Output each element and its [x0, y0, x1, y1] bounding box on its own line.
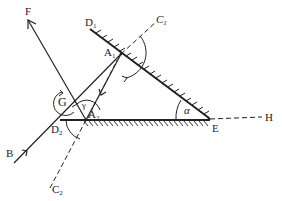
mirror-d1-e [90, 29, 209, 118]
label-d2-main: D [51, 123, 59, 135]
label-a2-main: A [88, 108, 96, 120]
label-c1-sub: 1 [163, 19, 167, 27]
label-gamma: γ [82, 101, 86, 110]
label-c2-sub: 2 [59, 189, 63, 197]
point-e [208, 118, 211, 121]
label-d2-sub: 2 [59, 129, 63, 137]
extension-line-e-h [210, 117, 262, 119]
label-e: E [212, 123, 219, 134]
label-a2-sub: 2 [96, 114, 100, 122]
label-a1-sub: 1 [112, 52, 116, 60]
mirror-d2-e [60, 120, 210, 126]
label-h: H [265, 112, 273, 123]
two-mirror-diagram [0, 0, 282, 201]
point-a2 [85, 119, 88, 122]
point-a1 [120, 53, 123, 56]
label-d1-sub: 1 [93, 22, 97, 30]
label-f: F [25, 6, 31, 17]
label-d1: D1 [85, 17, 96, 30]
label-d1-main: D [85, 16, 93, 28]
label-c1: C1 [156, 14, 167, 27]
label-alpha: α [184, 105, 190, 116]
label-c2: C2 [52, 184, 63, 197]
label-a1: A1 [104, 47, 115, 60]
label-a2: A2 [88, 109, 99, 122]
dashed-line-a1-c1 [121, 22, 156, 54]
reflected-ray-a2-f [28, 20, 86, 120]
label-d2: D2 [51, 124, 62, 137]
angle-arc-alpha [176, 100, 181, 120]
label-a1-main: A [104, 46, 112, 58]
label-g: G [58, 96, 67, 108]
label-b: B [6, 148, 13, 159]
incident-ray-b-a1 [14, 54, 121, 163]
